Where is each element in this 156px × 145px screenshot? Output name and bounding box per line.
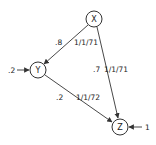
node-x-label: X [91,15,97,24]
edge-y-z-date: 1/1/72 [76,93,100,102]
external-input-y-label: .2 [8,66,15,75]
node-y-label: Y [35,66,41,75]
edge-x-y-date: 1/1/71 [74,38,98,47]
edge-x-y-coefficient: .8 [55,38,62,47]
node-z: Z [112,119,128,135]
node-y: Y [30,62,46,78]
path-diagram: X Y Z .8 1/1/71 .7 1/1/71 .2 1/1/72 .2 1 [0,0,156,145]
edge-x-z-coefficient: .7 [93,65,100,74]
node-z-label: Z [117,123,123,132]
node-x: X [86,11,102,27]
edge-y-z-coefficient: .2 [56,93,63,102]
edge-x-z-date: 1/1/71 [104,65,128,74]
external-input-z-label: 1 [145,123,150,132]
